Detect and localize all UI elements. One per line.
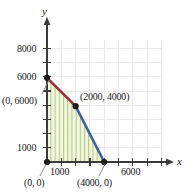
y-tick-label-1000: 1000 xyxy=(17,143,36,153)
point-label-x-intercept: (4000, 0) xyxy=(77,178,112,188)
y-axis-label: y xyxy=(42,6,47,17)
point-label-vertex: (2000, 4000) xyxy=(80,92,129,102)
point-x-intercept xyxy=(101,159,107,165)
x-tick-label-1000: 1000 xyxy=(50,167,69,177)
x-axis-arrow xyxy=(166,159,174,166)
y-tick-label-8000: 8000 xyxy=(17,44,36,54)
point-label-origin: (0, 0) xyxy=(24,178,44,188)
y-axis-arrow xyxy=(44,17,51,25)
point-y-intercept xyxy=(44,75,50,81)
y-tick-label-6000: 6000 xyxy=(17,72,36,82)
x-axis-label: x xyxy=(177,156,182,167)
point-vertex xyxy=(73,103,79,109)
point-origin xyxy=(44,159,50,165)
graph-figure: 8000 6000 1000 1000 6000 x y (0, 6000) (… xyxy=(0,0,193,193)
point-label-y-intercept: (0, 6000) xyxy=(2,96,37,106)
x-tick-label-6000: 6000 xyxy=(121,167,140,177)
